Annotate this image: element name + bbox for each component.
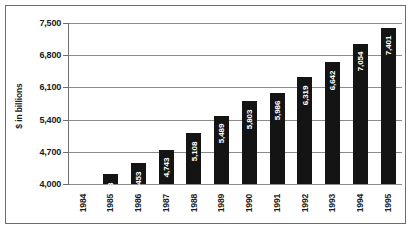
x-axis-tick-label: 1994 [352,186,368,226]
y-axis-tick-labels: 4,0004,7005,4006,1006,8007,500 [6,6,61,232]
bar[interactable]: 4,213 [103,174,118,184]
bar-value-label: 5,108 [189,141,198,161]
y-axis-tick-mark [63,152,68,153]
bar-value-label: 7,054 [356,52,365,72]
bar-value-label: 5,489 [217,124,226,144]
bar-value-label-wrap: 4,743 [161,153,172,183]
bar[interactable]: 5,986 [270,93,285,184]
x-axis-tick-label-inner: 1987 [160,186,172,220]
x-axis-tick-label: 1987 [158,186,174,226]
y-axis-tick-mark [63,184,68,185]
bar-value-label-wrap: 5,108 [188,136,199,166]
x-axis-tick-label-text: 1987 [161,194,171,213]
x-axis-tick-label-text: 1989 [217,194,227,213]
gridline [69,23,402,24]
bar-value-label-wrap: 7,054 [355,47,366,77]
x-axis-tick-label-inner: 1990 [243,186,255,220]
bar-value-label: 7,401 [384,36,393,56]
x-axis-tick-label: 1988 [186,186,202,226]
x-axis-tick-label-inner: 1994 [354,186,366,220]
y-axis-tick-label: 5,400 [15,115,61,125]
bar[interactable]: 6,642 [325,62,340,184]
y-axis-tick-mark [63,23,68,24]
y-axis-tick-label: 4,700 [15,147,61,157]
bar[interactable]: 4,743 [159,150,174,184]
bar-value-label-wrap: 6,319 [299,80,310,110]
x-axis-tick-label: 1993 [325,186,341,226]
bar-value-label: 6,319 [300,86,309,106]
y-axis-tick-label: 4,000 [15,179,61,189]
y-axis-tick-mark [63,55,68,56]
x-axis-tick-label-inner: 1991 [271,186,283,220]
chart-frame: $ in billions 4,0004,7005,4006,1006,8007… [5,5,406,224]
bar-value-label-wrap: 6,642 [327,65,338,95]
bar[interactable]: 7,401 [381,28,396,184]
x-axis-tick-label-inner: 1989 [216,186,228,220]
x-axis-tick-label-text: 1993 [328,194,338,213]
x-axis-tick-label: 1990 [241,186,257,226]
bar[interactable]: 5,108 [186,133,201,184]
y-axis-tick-label: 7,500 [15,18,61,28]
x-axis-tick-label: 1985 [103,186,119,226]
x-axis-tick-label-text: 1991 [272,194,282,213]
x-axis-tick-label-inner: 1984 [77,186,89,220]
x-axis-tick-label: 1984 [75,186,91,226]
bar[interactable]: 7,054 [353,44,368,184]
bar-value-label-wrap: 5,489 [216,119,227,149]
bar[interactable]: 5,489 [214,116,229,184]
x-axis-tick-label-inner: 1985 [105,186,117,220]
bar-value-label: 6,642 [328,71,337,91]
bar-value-label: 5,803 [245,109,254,129]
x-axis-tick-label-text: 1984 [78,194,88,213]
y-axis-tick-label: 6,800 [15,50,61,60]
x-axis-tick-label-text: 1992 [300,194,310,213]
bar[interactable]: 4,453 [131,163,146,184]
x-axis-tick-label-inner: 1992 [299,186,311,220]
x-axis-tick-label-text: 1994 [355,194,365,213]
gridline [69,184,402,185]
bar-value-label-wrap: 5,803 [244,104,255,134]
plot-area: 3,9334,2134,4534,7435,1085,4895,8035,986… [69,23,402,184]
x-axis-tick-label: 1986 [130,186,146,226]
x-axis-tick-label-inner: 1995 [382,186,394,220]
x-axis-tick-label: 1991 [269,186,285,226]
bar-value-label: 4,743 [162,158,171,178]
x-axis-tick-label-text: 1995 [383,194,393,213]
x-axis-tick-label: 1992 [297,186,313,226]
x-axis-tick-label-inner: 1986 [132,186,144,220]
x-axis-tick-label-inner: 1988 [188,186,200,220]
y-axis-tick-label: 6,100 [15,82,61,92]
x-axis-tick-labels: 1984198519861987198819891990199119921993… [69,186,402,230]
bar-value-label-wrap: 7,401 [383,31,394,61]
x-axis-tick-label-text: 1990 [244,194,254,213]
bar-value-label-wrap: 5,986 [272,96,283,126]
x-axis-tick-label-text: 1988 [189,194,199,213]
x-axis-tick-label-inner: 1993 [327,186,339,220]
y-axis-tick-mark [63,87,68,88]
bar[interactable]: 5,803 [242,101,257,184]
y-axis-tick-mark [63,120,68,121]
x-axis-tick-label-text: 1985 [106,194,116,213]
bar[interactable]: 6,319 [297,77,312,184]
bar-value-label: 5,986 [273,101,282,121]
x-axis-tick-label-text: 1986 [133,194,143,213]
x-axis-tick-label: 1995 [380,186,396,226]
x-axis-tick-label: 1989 [214,186,230,226]
